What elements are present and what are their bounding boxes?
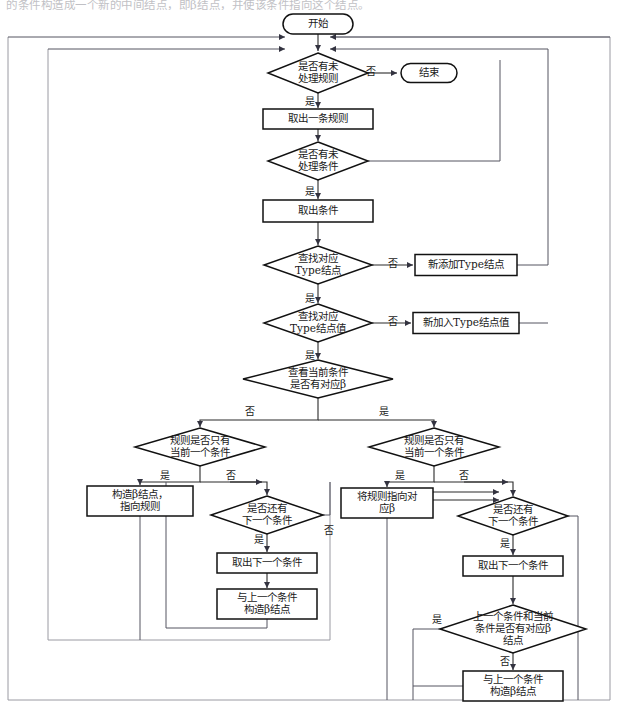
node-label: 条件是否有对应β [475,622,551,634]
node-label: 当前一个条件 [170,446,230,458]
node-label: 构造β结点， [112,488,168,500]
node-find_type: 查找对应Type结点 [264,246,372,284]
node-has_cond: 是否有未处理条件 [268,142,368,180]
node-label: 是否还有 [493,503,533,515]
node-label: Type结点值 [290,322,347,334]
node-label: 是否还有 [247,502,287,514]
node-point_beta: 将规则指向对应β [341,488,433,518]
edge-label-yesR2: 是 [500,538,510,549]
edge-label-yes4: 是 [305,350,315,361]
node-label: 上一个条件和当前 [473,610,553,622]
node-label: 查找对应 [298,310,339,322]
node-label: 取出一条规则 [288,112,348,124]
node-label: 新加入Type结点值 [423,316,510,328]
flowchart-page: 的条件构造成一个新的中间结点，即β结点，并使该条件指向这个结点。 [0,0,619,712]
node-label: 构造β结点 [244,603,290,615]
edge-label-no2: 否 [388,258,398,269]
edge-label-noR: 否 [459,470,469,481]
node-label: 处理条件 [298,160,338,172]
node-label: 规则是否只有 [404,434,464,446]
node-label: Type结点 [295,264,341,276]
node-label: 取出条件 [298,204,338,216]
edge-label-yesR3: 是 [432,614,442,625]
flowchart-canvas: 开始是否有未处理规则结束取出一条规则是否有未处理条件取出条件查找对应Type结点… [0,0,619,712]
node-end: 结束 [401,64,457,83]
node-prev_cur_beta: 上一个条件和当前条件是否有对应β结点 [440,605,586,653]
edge-label-noL: 否 [226,470,236,481]
edge-label-no3: 否 [388,316,398,327]
node-right_next: 是否还有下一个条件 [458,497,568,535]
node-right_mkbeta: 与上一个条件构造β结点 [463,671,563,701]
edge-label-yes2: 是 [305,186,315,197]
node-label: 应β [379,502,395,514]
node-left_next: 是否还有下一个条件 [211,496,323,534]
node-label: 指向规则 [120,500,160,512]
node-label: 是否有对应β [290,378,346,390]
node-label: 取出下一个条件 [232,556,302,568]
node-label: 下一个条件 [488,515,538,527]
node-build_beta: 构造β结点，指向规则 [87,486,193,516]
node-label: 开始 [308,17,329,29]
edge-label-yesL2: 是 [254,534,264,545]
node-take_cond: 取出条件 [263,200,373,222]
node-label: 是否有未 [298,148,339,160]
node-label: 将规则指向对 [357,490,418,502]
edge-label-yesL: 是 [160,470,170,481]
node-label: 取出下一个条件 [478,559,548,571]
node-left_mkbeta: 与上一个条件构造β结点 [217,589,317,619]
node-cur_has_beta: 查看当前条件是否有对应β [243,360,393,398]
node-label: 查找对应 [298,252,339,264]
node-find_typeval: 查找对应Type结点值 [264,304,372,342]
node-label: 下一个条件 [242,514,292,526]
node-label: 新添加Type结点 [428,258,504,270]
edge-label-yesR: 是 [395,470,405,481]
node-label: 处理规则 [298,72,338,84]
node-right_only_one: 规则是否只有当前一个条件 [369,428,499,466]
edge-label-no1: 否 [366,66,376,77]
node-label: 构造β结点 [490,685,536,697]
node-add_type: 新添加Type结点 [415,255,517,276]
node-left_only_one: 规则是否只有当前一个条件 [135,428,265,466]
edge-label-noL2: 否 [324,525,334,536]
node-has_rule: 是否有未处理规则 [268,53,368,93]
node-label: 结点 [503,634,523,646]
beta-branch-connectors [200,398,434,427]
node-left_takenext: 取出下一个条件 [217,553,317,573]
node-right_takenext: 取出下一个条件 [463,556,563,576]
node-label: 查看当前条件 [288,366,348,378]
edge-label-nob: 否 [245,406,255,417]
node-take_rule: 取出一条规则 [263,109,373,129]
edge-label-noR3: 否 [500,656,510,667]
edge-label-yes3: 是 [305,293,315,304]
edge-label-yesb: 是 [379,406,389,417]
node-label: 当前一个条件 [404,446,464,458]
node-label: 规则是否只有 [170,434,230,446]
node-add_typeval: 新加入Type结点值 [413,313,519,334]
node-label: 与上一个条件 [237,591,297,603]
node-label: 结束 [419,66,440,78]
node-label: 是否有未 [298,60,339,72]
node-start: 开始 [283,14,353,34]
node-label: 与上一个条件 [483,673,543,685]
edge-label-yes1: 是 [305,96,315,107]
flowchart-nodes: 开始是否有未处理规则结束取出一条规则是否有未处理条件取出条件查找对应Type结点… [87,14,586,701]
